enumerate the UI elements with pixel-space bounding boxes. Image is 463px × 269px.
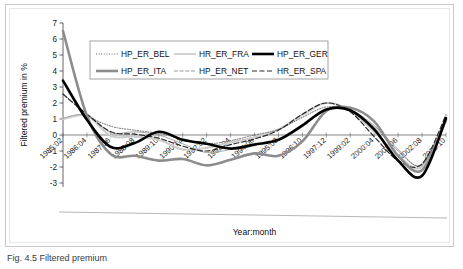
series-line <box>63 81 446 178</box>
x-axis-title-text: Year:month <box>233 227 277 237</box>
y-axis-tick-labels: -3-2-101234567 <box>50 19 63 188</box>
figure-frame: Filtered premium in % -3-2-101234567 198… <box>5 4 454 247</box>
y-tick-label: 3 <box>52 83 57 92</box>
y-tick-label: -2 <box>50 163 58 172</box>
x-tick-label: 1999:02 <box>325 136 351 161</box>
x-tick-label: 2000:04 <box>349 136 375 161</box>
legend-label[interactable]: HP_ER_ITA <box>121 66 166 76</box>
legend-label[interactable]: HP_ER_GER <box>277 49 328 59</box>
legend-label[interactable]: HP_ER_BEL <box>121 49 170 59</box>
chart-legend[interactable]: HP_ER_BELHR_ER_FRAHP_ER_GERHP_ER_ITAHP_E… <box>90 41 328 79</box>
x-axis-title: Year:month <box>233 227 277 237</box>
legend-label[interactable]: HR_ER_FRA <box>199 49 249 59</box>
figure-caption: Fig. 4.5 Filtered premium <box>7 252 447 268</box>
y-axis-title-text: Filtered premium in % <box>19 63 29 147</box>
x-tick-label: 1985:02 <box>38 136 64 161</box>
legend-label[interactable]: HP_ER_NET <box>199 66 248 76</box>
y-tick-label: 4 <box>52 67 57 76</box>
y-tick-label: 5 <box>52 51 57 60</box>
y-tick-label: 7 <box>52 19 57 28</box>
y-tick-label: 6 <box>52 35 57 44</box>
y-tick-label: 2 <box>52 99 57 108</box>
x-tick-label: 1986:04 <box>62 136 88 161</box>
premium-line-chart: Filtered premium in % -3-2-101234567 198… <box>6 5 455 248</box>
y-tick-label: 1 <box>52 115 57 124</box>
y-tick-label: -3 <box>50 179 58 188</box>
y-axis-title: Filtered premium in % <box>19 63 29 147</box>
legend-label[interactable]: HR_ER_SPA <box>277 66 327 76</box>
